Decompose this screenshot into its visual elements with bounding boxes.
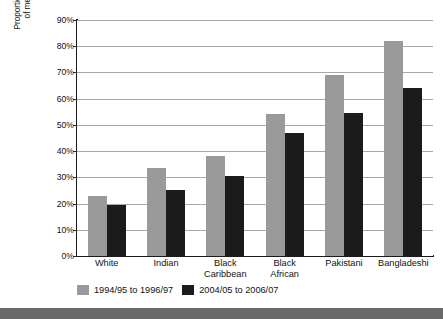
- x-axis-category-label-line: White: [77, 258, 136, 269]
- gridline: [77, 204, 433, 205]
- bar-group: [88, 20, 126, 256]
- y-axis-title: Proportion of the population in househol…: [8, 0, 38, 50]
- bar[interactable]: [403, 88, 422, 256]
- x-axis-category-label: White: [77, 258, 136, 269]
- bar[interactable]: [147, 168, 166, 256]
- y-axis-tick-label: 10%: [44, 225, 74, 235]
- bar[interactable]: [344, 113, 363, 256]
- x-axis-category-label-line: Black: [196, 258, 255, 269]
- gridline: [77, 20, 433, 21]
- gridline: [77, 46, 433, 47]
- bar[interactable]: [285, 133, 304, 256]
- gridline: [77, 125, 433, 126]
- y-axis-tick-label: 50%: [44, 120, 74, 130]
- y-axis-tick-label: 30%: [44, 172, 74, 182]
- y-axis-tickmark: [73, 177, 77, 178]
- bar-group: [206, 20, 244, 256]
- legend-swatch-black-icon: [182, 285, 194, 295]
- bar[interactable]: [206, 156, 225, 256]
- page-bottom-strip: [0, 308, 443, 319]
- x-axis-category-label: Indian: [136, 258, 195, 269]
- x-axis-category-label: BlackCaribbean: [196, 258, 255, 280]
- y-axis-title-line-2: of median income after deducting housing…: [23, 0, 33, 18]
- y-axis-tickmark: [73, 256, 77, 257]
- y-axis-tickmark: [73, 20, 77, 21]
- y-axis-tickmark: [73, 46, 77, 47]
- bar[interactable]: [325, 75, 344, 256]
- bar-group: [266, 20, 304, 256]
- y-axis-tickmark: [73, 99, 77, 100]
- bar[interactable]: [107, 205, 126, 256]
- legend-label: 1994/95 to 1996/97: [94, 285, 173, 295]
- y-axis-tickmark: [73, 204, 77, 205]
- bar-chart-figure: Proportion of the population in househol…: [0, 0, 443, 319]
- x-axis-category-label: Bangladeshi: [374, 258, 433, 269]
- x-axis-category-label: BlackAfrican: [255, 258, 314, 280]
- bar[interactable]: [384, 41, 403, 256]
- bar-group: [325, 20, 363, 256]
- bar-group: [147, 20, 185, 256]
- bar-group: [384, 20, 422, 256]
- y-axis-tick-label: 60%: [44, 94, 74, 104]
- gridline: [77, 99, 433, 100]
- bar[interactable]: [266, 114, 285, 256]
- plot-area: [77, 20, 433, 256]
- y-axis-tick-label: 90%: [44, 15, 74, 25]
- chart-legend: 1994/95 to 1996/972004/05 to 2006/07: [77, 285, 278, 295]
- x-axis-category-label-line: Caribbean: [196, 269, 255, 280]
- x-axis-category-label-line: African: [255, 269, 314, 280]
- legend-entry[interactable]: 1994/95 to 1996/97: [77, 285, 173, 295]
- bar[interactable]: [166, 190, 185, 256]
- x-axis-category-label-line: Pakistani: [314, 258, 373, 269]
- legend-label: 2004/05 to 2006/07: [199, 285, 278, 295]
- gridline: [77, 230, 433, 231]
- gridline: [77, 177, 433, 178]
- y-axis-tickmark: [73, 230, 77, 231]
- y-axis-tick-labels: 0%10%20%30%40%50%60%70%80%90%: [44, 20, 74, 256]
- y-axis-tickmark: [73, 125, 77, 126]
- x-axis-category-label-line: Black: [255, 258, 314, 269]
- bar[interactable]: [88, 196, 107, 256]
- legend-swatch-gray-icon: [77, 285, 89, 295]
- x-axis-category-label: Pakistani: [314, 258, 373, 269]
- y-axis-tickmark: [73, 151, 77, 152]
- y-axis-tick-label: 40%: [44, 146, 74, 156]
- y-axis-tick-label: 20%: [44, 199, 74, 209]
- y-axis-tick-label: 80%: [44, 41, 74, 51]
- y-axis-title-line-1: Proportion of the population in househol…: [13, 0, 23, 30]
- x-axis-category-label-line: Bangladeshi: [374, 258, 433, 269]
- y-axis-tick-label: 0%: [44, 251, 74, 261]
- y-axis-tickmark: [73, 72, 77, 73]
- legend-entry[interactable]: 2004/05 to 2006/07: [182, 285, 278, 295]
- y-axis-tick-label: 70%: [44, 67, 74, 77]
- gridline: [77, 151, 433, 152]
- bar[interactable]: [225, 176, 244, 256]
- x-axis-category-label-line: Indian: [136, 258, 195, 269]
- gridline: [77, 72, 433, 73]
